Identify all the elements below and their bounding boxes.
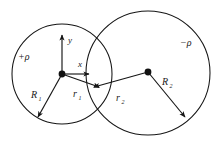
physics-diagram: +ρ −ρ y x R 1 r 1 r 2 R 2 <box>0 0 218 148</box>
radius-2-label: R 2 <box>161 76 173 89</box>
positive-center-dot <box>59 71 66 78</box>
radius-1-arrow <box>38 74 62 117</box>
vector-r1-label-subscript: 1 <box>79 95 82 101</box>
negative-center-dot <box>145 69 152 76</box>
vector-r2-arrow <box>94 72 148 87</box>
figure-container: +ρ −ρ y x R 1 r 1 r 2 R 2 <box>0 0 218 148</box>
radius-2-label-subscript: 2 <box>170 83 173 89</box>
x-axis-label: x <box>77 59 82 69</box>
vector-r1-arrow <box>62 74 99 87</box>
positive-charge-label: +ρ <box>18 51 30 62</box>
vector-r2-label: r 2 <box>116 92 125 105</box>
radius-1-label-subscript: 1 <box>39 96 42 102</box>
vector-r1-label-base: r <box>73 88 77 99</box>
vector-r2-label-base: r <box>116 92 120 103</box>
vector-r1-label: r 1 <box>73 88 82 101</box>
y-axis-label: y <box>67 35 72 45</box>
radius-1-label-base: R <box>30 89 37 100</box>
negative-charge-label: −ρ <box>180 37 192 48</box>
radius-1-label: R 1 <box>30 89 42 102</box>
radius-2-label-base: R <box>161 76 168 87</box>
vector-r2-label-subscript: 2 <box>122 99 125 105</box>
